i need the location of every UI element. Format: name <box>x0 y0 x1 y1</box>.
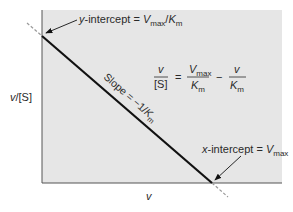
y-axis-label: v/[S] <box>10 91 32 103</box>
svg-text:−: − <box>216 71 222 83</box>
dashed-extension-bottom <box>212 183 228 197</box>
x-axis-label: v <box>146 190 153 202</box>
svg-text:[S]: [S] <box>154 78 167 90</box>
svg-text:=: = <box>175 71 181 83</box>
plot-area <box>42 10 282 183</box>
dashed-extension-top <box>27 23 42 36</box>
eadie-hofstee-diagram: y-intercept = Vmax/Km v [S] = Vmax Km − … <box>0 0 293 212</box>
